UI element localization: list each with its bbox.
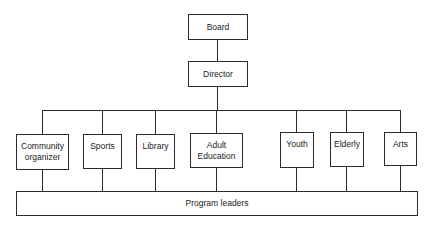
bus-to-youth — [296, 110, 297, 132]
sports-box: Sports — [83, 134, 122, 169]
community-organizer-box: Community organizer — [16, 134, 69, 170]
elderly-to-program-leaders — [346, 166, 347, 191]
arts-to-program-leaders — [400, 165, 401, 191]
community-organizer-to-program-leaders — [42, 169, 43, 191]
adult-education-to-program-leaders — [216, 167, 217, 191]
community-organizer-label-line1: Community — [17, 141, 68, 152]
youth-to-program-leaders — [296, 167, 297, 191]
youth-label: Youth — [281, 139, 313, 150]
adult-education-label-line2: Education — [191, 151, 242, 162]
sports-to-program-leaders — [102, 168, 103, 191]
bus-to-adult-education — [216, 110, 217, 133]
board-director-connector — [217, 39, 218, 61]
youth-box: Youth — [280, 132, 314, 168]
community-organizer-label-line2: organizer — [17, 152, 68, 163]
library-box: Library — [136, 134, 175, 169]
board-box: Board — [188, 14, 248, 40]
adult-education-box: Adult Education — [190, 133, 243, 168]
bus-to-library — [155, 110, 156, 134]
director-bus-connector — [217, 86, 218, 110]
program-leaders-box: Program leaders — [16, 191, 418, 216]
adult-education-label-line1: Adult — [191, 140, 242, 151]
library-to-program-leaders — [155, 168, 156, 191]
arts-box: Arts — [384, 132, 417, 166]
horizontal-bus — [42, 110, 401, 111]
program-leaders-label: Program leaders — [186, 198, 249, 209]
sports-label: Sports — [84, 141, 121, 152]
elderly-label: Elderly — [331, 139, 363, 150]
bus-to-community-organizer — [42, 110, 43, 134]
elderly-box: Elderly — [330, 132, 364, 167]
bus-to-sports — [102, 110, 103, 134]
bus-to-arts — [400, 110, 401, 132]
board-label: Board — [207, 22, 230, 33]
director-box: Director — [188, 61, 248, 87]
library-label: Library — [137, 141, 174, 152]
arts-label: Arts — [385, 139, 416, 150]
director-label: Director — [203, 69, 233, 80]
bus-to-elderly — [346, 110, 347, 132]
